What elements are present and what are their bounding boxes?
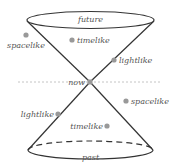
- now-label: now: [68, 78, 85, 87]
- lightlike-upper-dot: [111, 57, 116, 62]
- spacelike-lower-dot: [123, 98, 128, 103]
- timelike-lower-dot: [104, 123, 109, 128]
- timelike-upper-label: timelike: [77, 36, 110, 45]
- timelike-upper-dot: [69, 37, 74, 42]
- now-point-marker: [88, 80, 93, 85]
- spacelike-upper-dot: [23, 32, 28, 37]
- spacelike-upper-label: spacelike: [7, 41, 45, 50]
- past-label: past: [82, 153, 100, 162]
- lightlike-upper-label: lightlike: [119, 56, 153, 65]
- lightlike-lower-label: lightlike: [21, 110, 55, 119]
- past-cone-rim-back: [28, 141, 153, 150]
- future-cone-right-edge: [90, 21, 154, 82]
- past-cone-right-edge: [90, 82, 153, 150]
- light-cone-diagram: future past now spacelike timelike light…: [0, 0, 174, 167]
- spacelike-lower-label: spacelike: [131, 97, 169, 106]
- timelike-lower-label: timelike: [70, 122, 103, 131]
- future-label: future: [77, 15, 103, 24]
- future-cone-left-edge: [27, 21, 90, 82]
- lightlike-lower-dot: [55, 111, 60, 116]
